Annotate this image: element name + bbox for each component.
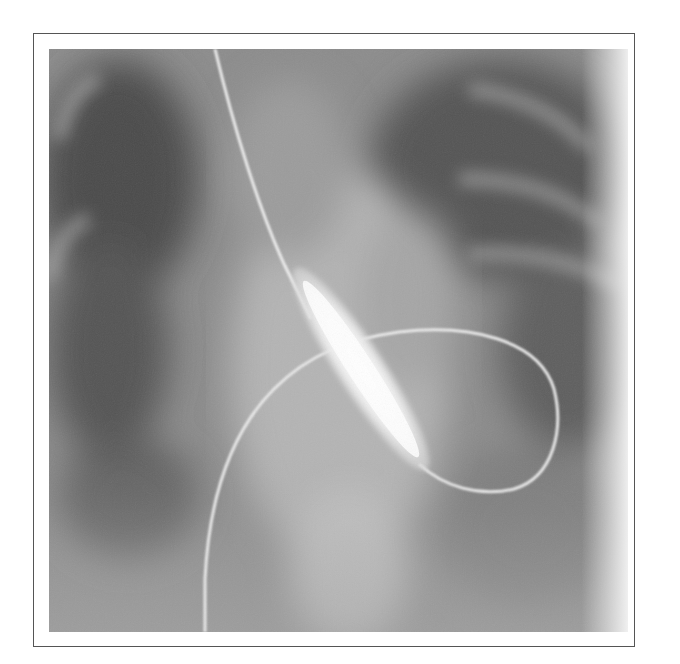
fluoroscopy-image bbox=[49, 49, 628, 632]
xray-canvas bbox=[49, 49, 628, 632]
